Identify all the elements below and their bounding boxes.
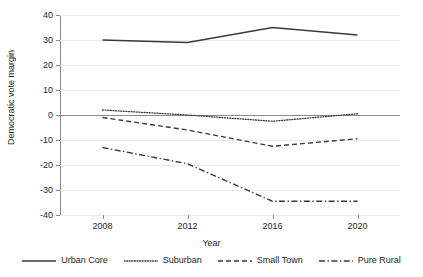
y-tick-label: -10 (40, 136, 53, 145)
x-tick-mark (103, 215, 104, 219)
y-tick-mark (56, 215, 60, 216)
legend-label-suburban: Suburban (163, 256, 202, 265)
series-line-suburban (103, 110, 358, 121)
legend-label-urban-core: Urban Core (61, 256, 108, 265)
x-tick-label: 2008 (92, 222, 112, 231)
chart-container: Democratic vote margin 403020100-10-20-3… (0, 0, 423, 277)
y-axis-title: Democratic vote margin (6, 50, 20, 145)
legend-label-small-town: Small Town (257, 256, 303, 265)
gridline (60, 215, 400, 216)
legend-item-suburban[interactable]: Suburban (124, 256, 202, 265)
x-axis-title: Year (0, 238, 423, 248)
series-lines (60, 15, 400, 215)
chart-legend: Urban CoreSuburbanSmall TownPure Rural (0, 256, 423, 265)
legend-swatch-suburban (124, 257, 158, 265)
plot-area: 403020100-10-20-30-40 (60, 15, 400, 215)
series-line-small-town (103, 118, 358, 147)
x-tick-label: 2020 (347, 222, 367, 231)
x-tick-mark (358, 215, 359, 219)
y-tick-label: 0 (48, 111, 53, 120)
x-tick-label: 2012 (177, 222, 197, 231)
x-tick-mark (188, 215, 189, 219)
y-tick-label: -20 (40, 161, 53, 170)
y-tick-label: 30 (43, 36, 53, 45)
series-line-urban-core (103, 28, 358, 43)
legend-label-pure-rural: Pure Rural (358, 256, 401, 265)
series-line-pure-rural (103, 148, 358, 202)
y-tick-label: 20 (43, 61, 53, 70)
legend-swatch-pure-rural (319, 257, 353, 265)
x-tick-mark (273, 215, 274, 219)
x-tick-label: 2016 (262, 222, 282, 231)
legend-item-urban-core[interactable]: Urban Core (22, 256, 108, 265)
y-tick-label: 10 (43, 86, 53, 95)
y-tick-label: -40 (40, 211, 53, 220)
legend-swatch-urban-core (22, 257, 56, 265)
y-tick-label: -30 (40, 186, 53, 195)
legend-item-small-town[interactable]: Small Town (218, 256, 303, 265)
legend-swatch-small-town (218, 257, 252, 265)
legend-item-pure-rural[interactable]: Pure Rural (319, 256, 401, 265)
y-tick-label: 40 (43, 11, 53, 20)
